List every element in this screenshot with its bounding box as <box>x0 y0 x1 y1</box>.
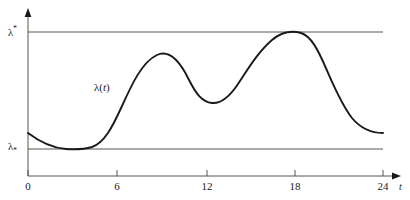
lambda-upper-threshold-label: λ* <box>8 24 17 38</box>
lambda-lower-threshold-label: λ* <box>8 141 17 155</box>
x-axis-label: t <box>399 181 402 192</box>
plot-canvas <box>0 0 410 200</box>
lambda-lower-star: * <box>13 146 17 155</box>
x-tick-label-6: 6 <box>104 180 130 192</box>
x-tick-marks <box>28 170 383 176</box>
lambda-intensity-figure: λ* λ* λ(t) 0 6 12 18 24 t <box>0 0 410 200</box>
x-tick-label-18: 18 <box>282 180 308 192</box>
x-tick-label-12: 12 <box>194 180 220 192</box>
lambda-curve <box>28 32 383 150</box>
x-tick-label-24: 24 <box>370 180 396 192</box>
x-tick-label-0: 0 <box>15 180 41 192</box>
lambda-upper-star: * <box>13 24 17 33</box>
arrow-right-icon <box>392 173 401 180</box>
curve-label-paren-close: ) <box>106 81 110 93</box>
arrow-up-icon <box>25 8 32 17</box>
curve-label: λ(t) <box>94 81 110 93</box>
